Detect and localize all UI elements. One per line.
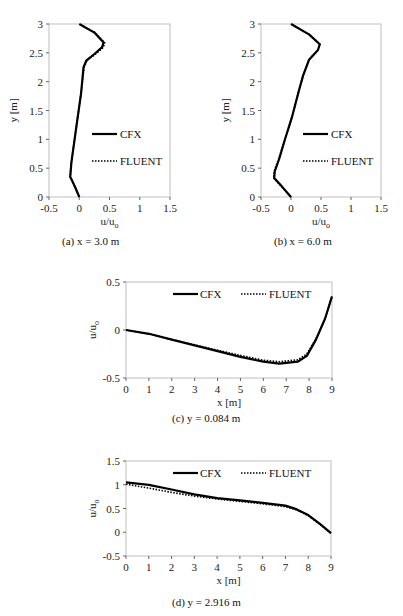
- svg-text:u/uo: u/uo: [86, 499, 101, 517]
- y-tick-label: 2: [250, 76, 256, 88]
- axis-label: u/uo: [86, 499, 101, 517]
- x-tick-label: 4: [215, 383, 221, 395]
- series-cfx: [70, 24, 103, 197]
- x-tick-label: 0: [288, 202, 294, 214]
- svg-text:u/uo: u/uo: [100, 215, 118, 230]
- x-tick-label: 1.5: [374, 202, 388, 214]
- x-tick-label: 1: [137, 202, 143, 214]
- legend: CFXFLUENT: [173, 467, 311, 479]
- legend-label-fluent: FLUENT: [331, 155, 373, 167]
- x-tick-label: 3: [192, 383, 198, 395]
- figure-canvas: -0.500.511.500.511.522.53u/uoy [m]CFXFLU…: [0, 0, 403, 616]
- legend-label-cfx: CFX: [331, 128, 352, 140]
- legend: CFXFLUENT: [173, 288, 311, 300]
- y-tick-label: 0: [115, 324, 121, 336]
- legend-label-cfx: CFX: [200, 467, 221, 479]
- y-tick-label: 1.5: [29, 105, 43, 117]
- svg-text:u/uo: u/uo: [86, 321, 101, 339]
- caption-c: (c) y = 0.084 m: [172, 412, 240, 424]
- x-tick-label: 0: [77, 202, 83, 214]
- y-tick-label: 0: [38, 191, 44, 203]
- axis-label: u/uo: [100, 215, 118, 230]
- x-tick-label: 4: [214, 561, 220, 573]
- x-tick-label: -0.5: [252, 202, 270, 214]
- x-tick-label: 5: [237, 561, 243, 573]
- x-tick-label: -0.5: [40, 202, 58, 214]
- series-fluent: [126, 484, 331, 533]
- x-tick-label: 0.5: [314, 202, 328, 214]
- y-tick-label: 2.5: [241, 47, 255, 59]
- x-tick-label: 7: [283, 561, 289, 573]
- y-tick-label: 1.5: [241, 105, 255, 117]
- y-tick-label: 3: [38, 18, 44, 30]
- x-tick-label: 0.5: [103, 202, 117, 214]
- series-cfx: [274, 24, 320, 197]
- x-tick-label: 5: [238, 383, 244, 395]
- x-tick-label: 2: [169, 561, 175, 573]
- x-tick-label: 9: [328, 561, 334, 573]
- x-tick-label: 0: [123, 383, 129, 395]
- axis-label: u/uo: [86, 321, 101, 339]
- x-tick-label: 1: [348, 202, 354, 214]
- y-tick-label: 0: [115, 526, 121, 538]
- y-tick-label: 2: [38, 76, 44, 88]
- series-fluent: [70, 24, 105, 197]
- legend-label-cfx: CFX: [200, 288, 221, 300]
- axis-label: x [m]: [217, 396, 241, 408]
- caption-a: (a) x = 3.0 m: [62, 235, 119, 247]
- y-tick-label: 0.5: [29, 162, 43, 174]
- plot-frame: [49, 24, 170, 197]
- x-tick-label: 1: [146, 561, 152, 573]
- y-tick-label: 1: [115, 479, 121, 491]
- plot-frame: [261, 24, 381, 197]
- y-tick-label: 3: [250, 18, 256, 30]
- chart-panel-a: -0.500.511.500.511.522.53u/uoy [m]CFXFLU…: [7, 18, 177, 230]
- y-tick-label: 1.5: [106, 455, 120, 467]
- x-tick-label: 6: [261, 383, 267, 395]
- x-tick-label: 9: [329, 383, 335, 395]
- axis-label: y [m]: [219, 98, 231, 122]
- y-tick-label: 0.5: [241, 162, 255, 174]
- x-tick-label: 8: [306, 383, 312, 395]
- legend-label-fluent: FLUENT: [269, 467, 311, 479]
- x-tick-label: 3: [192, 561, 198, 573]
- legend-label-fluent: FLUENT: [120, 155, 162, 167]
- y-tick-label: 1: [38, 133, 44, 145]
- chart-panel-c: 0123456789-0.500.5x [m]u/uoCFXFLUENT: [86, 276, 335, 408]
- y-tick-label: 1: [250, 133, 256, 145]
- y-tick-label: 0.5: [106, 276, 120, 288]
- y-tick-label: 0.5: [106, 503, 120, 515]
- chart-panel-d: 0123456789-0.500.511.5x [m]u/uoCFXFLUENT: [86, 455, 334, 586]
- y-tick-label: 0: [250, 191, 256, 203]
- y-tick-label: -0.5: [103, 372, 121, 384]
- axis-label: u/uo: [312, 215, 330, 230]
- x-tick-label: 2: [169, 383, 175, 395]
- svg-text:u/uo: u/uo: [312, 215, 330, 230]
- x-tick-label: 8: [305, 561, 311, 573]
- series-fluent: [274, 24, 320, 197]
- series-fluent: [126, 296, 332, 361]
- caption-b: (b) x = 6.0 m: [274, 235, 332, 247]
- caption-d: (d) y = 2.916 m: [172, 596, 241, 608]
- x-tick-label: 1.5: [163, 202, 177, 214]
- legend-label-fluent: FLUENT: [269, 288, 311, 300]
- x-tick-label: 7: [283, 383, 289, 395]
- axis-label: x [m]: [216, 574, 240, 586]
- axis-label: y [m]: [7, 98, 19, 122]
- legend: CFXFLUENT: [92, 128, 162, 167]
- y-tick-label: -0.5: [103, 550, 121, 562]
- chart-panel-b: -0.500.511.500.511.522.53u/uoy [m]CFXFLU…: [219, 18, 388, 230]
- x-tick-label: 1: [146, 383, 152, 395]
- legend: CFXFLUENT: [303, 128, 373, 167]
- y-tick-label: 2.5: [29, 47, 43, 59]
- x-tick-label: 6: [260, 561, 266, 573]
- legend-label-cfx: CFX: [120, 128, 141, 140]
- x-tick-label: 0: [123, 561, 129, 573]
